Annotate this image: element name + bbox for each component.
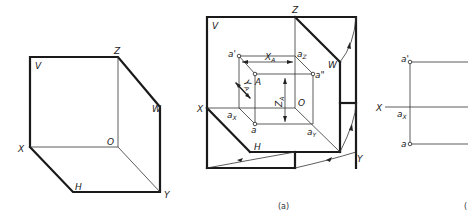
label-Z: Z bbox=[113, 46, 121, 56]
label-H: H bbox=[254, 142, 261, 152]
label-aZ: aZ bbox=[297, 49, 308, 60]
label-W: W bbox=[328, 60, 338, 70]
label-a-prime: a' bbox=[401, 54, 409, 64]
label-aX: aX bbox=[397, 109, 408, 120]
label-O: O bbox=[298, 98, 305, 108]
label-X: X bbox=[196, 104, 204, 114]
label-aX: aX bbox=[227, 110, 238, 121]
label-a-double-prime: a" bbox=[315, 70, 325, 80]
label-a-prime: a' bbox=[228, 49, 236, 59]
label-O: O bbox=[107, 137, 114, 147]
label-X: X bbox=[17, 144, 25, 154]
label-Z: Z bbox=[291, 5, 299, 15]
label-ZA: ZA bbox=[274, 97, 285, 108]
caption-b-partial: ( bbox=[464, 202, 467, 211]
label-Y: Y bbox=[357, 154, 364, 164]
label-A: A bbox=[254, 77, 261, 87]
left-figure-projection-planes: V Z W X O H Y bbox=[17, 46, 171, 200]
label-V: V bbox=[212, 21, 219, 31]
label-XA: XA bbox=[264, 52, 275, 63]
right-figure-two-view: X a' aX a ( bbox=[375, 54, 468, 211]
label-a: a bbox=[251, 125, 257, 135]
label-H: H bbox=[75, 182, 82, 192]
label-Y: Y bbox=[164, 190, 171, 200]
caption-a: (a) bbox=[278, 202, 289, 211]
label-W: W bbox=[152, 104, 162, 114]
label-X: X bbox=[375, 103, 383, 113]
middle-figure-point-projection: V Z W X O H Y a' aZ a" A aX a aY XA YA Z… bbox=[196, 5, 364, 211]
label-a: a bbox=[401, 139, 407, 149]
three-projection-diagram: V Z W X O H Y bbox=[0, 0, 468, 219]
label-V: V bbox=[35, 61, 42, 71]
